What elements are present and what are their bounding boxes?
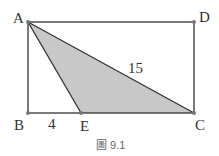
label-C: C (195, 117, 205, 133)
geometry-figure: A D B C E 15 4 圖 9.1 (0, 0, 219, 156)
label-B: B (14, 117, 24, 133)
label-AC-length: 15 (128, 60, 143, 76)
label-E: E (80, 118, 89, 134)
point-E (79, 111, 83, 115)
point-C (192, 111, 196, 115)
point-B (26, 111, 30, 115)
label-A: A (13, 10, 24, 26)
label-BE-length: 4 (48, 116, 56, 132)
point-D (192, 20, 196, 24)
figure-caption: 圖 9.1 (96, 139, 125, 151)
point-A (26, 20, 30, 24)
label-D: D (199, 9, 210, 25)
